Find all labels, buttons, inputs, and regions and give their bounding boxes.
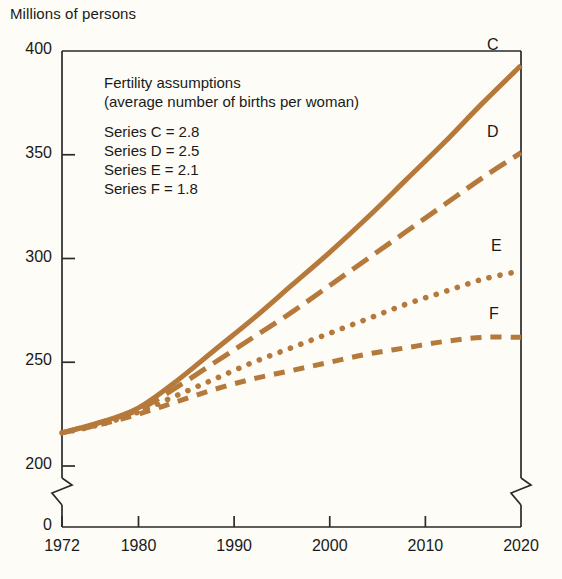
series-label-d: D xyxy=(487,123,499,141)
series-line-c xyxy=(62,66,521,433)
y-tick-label-200: 200 xyxy=(4,455,52,473)
x-tick-label-1990: 1990 xyxy=(199,537,269,555)
series-label-c: C xyxy=(487,36,499,54)
series-label-e: E xyxy=(491,237,502,255)
plot-area xyxy=(0,0,562,579)
x-tick-label-2020: 2020 xyxy=(486,537,556,555)
right-axis-break-mark xyxy=(511,478,531,505)
y-tick-label-zero: 0 xyxy=(4,516,52,534)
y-tick-label-350: 350 xyxy=(4,144,52,162)
x-tick-label-2010: 2010 xyxy=(390,537,460,555)
y-tick-label-400: 400 xyxy=(4,40,52,58)
x-tick-label-1980: 1980 xyxy=(104,537,174,555)
x-tick-label-1972: 1972 xyxy=(27,537,97,555)
series-line-f xyxy=(62,337,521,433)
y-tick-label-300: 300 xyxy=(4,248,52,266)
y-tick-label-250: 250 xyxy=(4,351,52,369)
fertility-projection-chart: Millions of persons Fertility assumption… xyxy=(0,0,562,579)
series-label-f: F xyxy=(489,305,499,323)
series-line-e xyxy=(62,271,521,433)
x-tick-label-2000: 2000 xyxy=(295,537,365,555)
y-axis-break-mark xyxy=(52,478,72,505)
series-line-d xyxy=(62,153,521,433)
